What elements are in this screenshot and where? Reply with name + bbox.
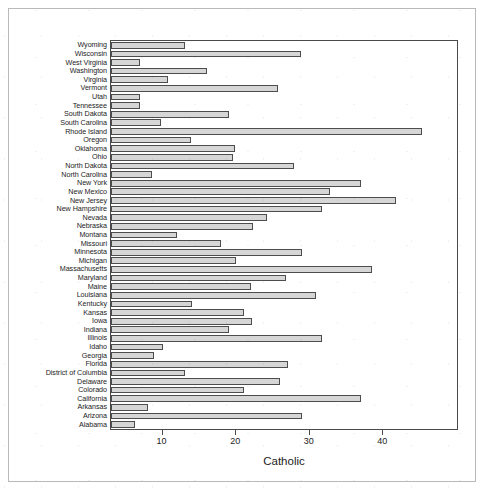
category-label: Utah: [0, 93, 107, 101]
bar-row: [111, 231, 457, 240]
bar[interactable]: [111, 249, 302, 256]
category-label: Virginia: [0, 76, 107, 84]
bar[interactable]: [111, 361, 288, 368]
bar-row: [111, 257, 457, 266]
bar-row: [111, 144, 457, 153]
bar-row: [111, 317, 457, 326]
category-label: District of Columbia: [0, 369, 107, 377]
category-label: North Carolina: [0, 171, 107, 179]
category-label: Wyoming: [0, 41, 107, 49]
category-label: New Hampshire: [0, 205, 107, 213]
bar-row: [111, 420, 457, 429]
category-label: Ohio: [0, 153, 107, 161]
bar-row: [111, 188, 457, 197]
category-label: Georgia: [0, 352, 107, 360]
bar[interactable]: [111, 51, 301, 58]
bar-row: [111, 291, 457, 300]
bar[interactable]: [111, 275, 286, 282]
bar[interactable]: [111, 344, 163, 351]
bar[interactable]: [111, 421, 135, 428]
x-axis-tick: [382, 430, 383, 435]
bar-row: [111, 196, 457, 205]
bar[interactable]: [111, 42, 185, 49]
bar[interactable]: [111, 68, 207, 75]
x-axis-tick-label: 40: [377, 436, 387, 446]
x-axis-tick: [235, 430, 236, 435]
category-label: Indiana: [0, 326, 107, 334]
category-label: South Dakota: [0, 110, 107, 118]
bar[interactable]: [111, 387, 244, 394]
bar[interactable]: [111, 85, 278, 92]
category-label: Maine: [0, 283, 107, 291]
bar[interactable]: [111, 188, 330, 195]
bar-row: [111, 153, 457, 162]
bar[interactable]: [111, 145, 235, 152]
x-axis-tick-label: 30: [304, 436, 314, 446]
bar-row: [111, 93, 457, 102]
bar-row: [111, 274, 457, 283]
bar-row: [111, 403, 457, 412]
category-label: Vermont: [0, 84, 107, 92]
bar[interactable]: [111, 197, 396, 204]
bar[interactable]: [111, 370, 185, 377]
bar[interactable]: [111, 292, 316, 299]
bar[interactable]: [111, 232, 177, 239]
bar[interactable]: [111, 154, 233, 161]
bar[interactable]: [111, 404, 148, 411]
bar[interactable]: [111, 240, 221, 247]
bar[interactable]: [111, 309, 244, 316]
bar-row: [111, 386, 457, 395]
bar-row: [111, 58, 457, 67]
bar[interactable]: [111, 395, 361, 402]
bar[interactable]: [111, 102, 140, 109]
category-label: Colorado: [0, 386, 107, 394]
figure-canvas: WyomingWisconsinWest VirginiaWashingtonV…: [0, 0, 484, 490]
bar[interactable]: [111, 214, 267, 221]
bar[interactable]: [111, 301, 192, 308]
category-label: Wisconsin: [0, 50, 107, 58]
bar-row: [111, 136, 457, 145]
bar[interactable]: [111, 335, 322, 342]
bar[interactable]: [111, 413, 302, 420]
bar[interactable]: [111, 318, 252, 325]
x-axis-title: Catholic: [110, 455, 458, 467]
bar[interactable]: [111, 94, 140, 101]
bar[interactable]: [111, 266, 372, 273]
bar[interactable]: [111, 171, 152, 178]
bar[interactable]: [111, 128, 422, 135]
bar[interactable]: [111, 223, 253, 230]
bar-row: [111, 222, 457, 231]
bar[interactable]: [111, 283, 251, 290]
category-label: Louisiana: [0, 291, 107, 299]
bar[interactable]: [111, 111, 229, 118]
category-label: Montana: [0, 231, 107, 239]
bar[interactable]: [111, 119, 161, 126]
bar[interactable]: [111, 206, 322, 213]
bar-row: [111, 360, 457, 369]
bar[interactable]: [111, 180, 361, 187]
category-label: Nebraska: [0, 222, 107, 230]
category-label: Oregon: [0, 136, 107, 144]
category-label: Kentucky: [0, 300, 107, 308]
category-label: Delaware: [0, 378, 107, 386]
bar[interactable]: [111, 352, 154, 359]
bar[interactable]: [111, 257, 236, 264]
bar-row: [111, 300, 457, 309]
category-label: South Carolina: [0, 119, 107, 127]
category-label: West Virginia: [0, 59, 107, 67]
bar[interactable]: [111, 326, 229, 333]
bar-row: [111, 205, 457, 214]
bar-row: [111, 308, 457, 317]
category-label: Michigan: [0, 257, 107, 265]
bar[interactable]: [111, 76, 168, 83]
category-label: Oklahoma: [0, 145, 107, 153]
category-label: Iowa: [0, 317, 107, 325]
bar[interactable]: [111, 59, 140, 66]
bar-row: [111, 84, 457, 93]
bar-row: [111, 395, 457, 404]
bar[interactable]: [111, 163, 294, 170]
bar[interactable]: [111, 137, 191, 144]
bar-row: [111, 67, 457, 76]
bar[interactable]: [111, 378, 280, 385]
bar-row: [111, 50, 457, 59]
